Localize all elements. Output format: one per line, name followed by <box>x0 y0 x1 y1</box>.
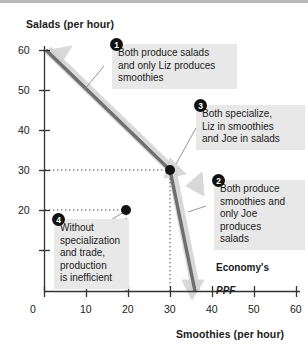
y-tick-30: 30 <box>18 164 30 176</box>
y-tick-60: 60 <box>18 44 30 56</box>
ppf-label-line1: Economy's <box>216 262 269 273</box>
callout-three-badge: 3 <box>194 99 207 112</box>
x-tick-60: 60 <box>290 303 302 315</box>
callout-two: Both produce smoothies and only Joe prod… <box>214 180 305 250</box>
y-tick-40: 40 <box>18 124 30 136</box>
ppf-label: Economy's PPF <box>216 250 269 296</box>
callout-four: Without specialization and trade, produc… <box>54 219 129 289</box>
x-tick-10: 10 <box>80 303 92 315</box>
leader-three <box>176 128 196 164</box>
data-points <box>121 165 175 215</box>
callout-one-badge: 1 <box>110 38 123 51</box>
y-tick-20: 20 <box>18 204 30 216</box>
x-tick-20: 20 <box>122 303 134 315</box>
x-tick-0: 0 <box>30 303 36 315</box>
callout-two-badge: 2 <box>212 174 225 187</box>
x-axis-title: Smoothies (per hour) <box>176 328 284 340</box>
callout-three: Both specialize, Liz in smoothies and Jo… <box>196 105 305 150</box>
leader-one <box>84 66 104 90</box>
specialization-point <box>165 165 175 175</box>
y-tick-50: 50 <box>18 84 30 96</box>
callout-four-badge: 4 <box>52 213 65 226</box>
callout-one: Both produce salads and only Liz produce… <box>112 44 237 89</box>
y-axis-title: Salads (per hour) <box>26 18 114 30</box>
x-tick-30: 30 <box>164 303 176 315</box>
ppf-label-line2: PPF <box>216 285 235 296</box>
leader-two <box>188 206 206 212</box>
inefficient-point <box>121 205 131 215</box>
ppf-chart: Salads (per hour) Smoothies (per hour) 6… <box>0 0 308 355</box>
x-tick-40: 40 <box>206 303 218 315</box>
x-tick-50: 50 <box>248 303 260 315</box>
